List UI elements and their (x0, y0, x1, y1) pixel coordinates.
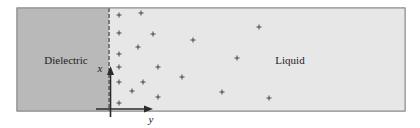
dielectric-label: Dielectric (44, 54, 87, 66)
liquid-region (109, 8, 405, 111)
x-axis-label: x (97, 62, 103, 74)
y-axis-label: y (148, 113, 154, 125)
dielectric-liquid-interface-diagram: Dielectric Liquid x y (0, 0, 420, 128)
liquid-label: Liquid (275, 54, 305, 66)
